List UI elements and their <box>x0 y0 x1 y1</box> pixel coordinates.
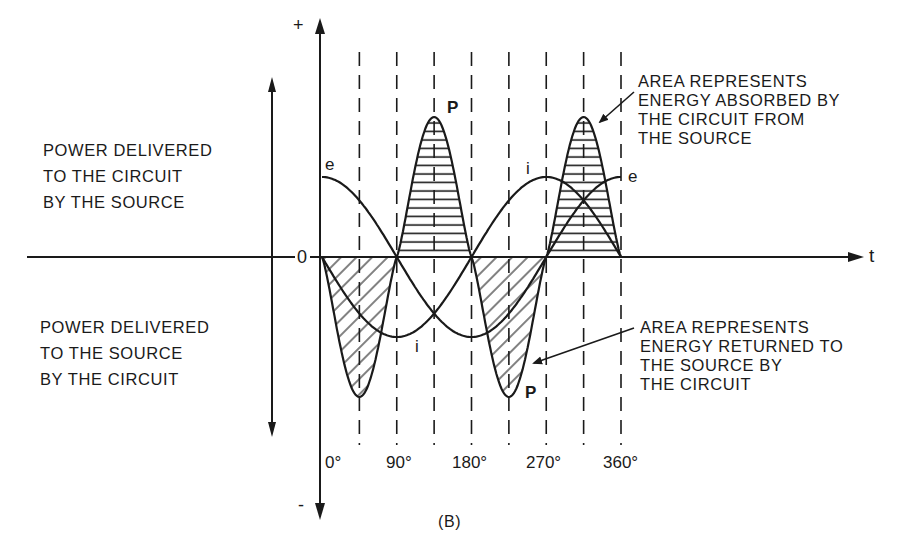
energy-absorbed-annotation: AREA REPRESENTS ENERGY ABSORBED BY THE C… <box>638 72 840 148</box>
time-axis-label: t <box>869 245 875 267</box>
returned-energy-lobe-0 <box>322 257 397 397</box>
power-direction-up-arrowhead <box>268 77 276 92</box>
x-tick-90: 90° <box>386 453 412 473</box>
returned-energy-lobe-2 <box>472 257 547 397</box>
curve-label-p-bottom: P <box>525 383 536 403</box>
axis-positive-sign: + <box>293 14 304 36</box>
figure-caption: (B) <box>438 511 461 533</box>
time-axis-arrowhead <box>848 252 864 262</box>
energy-returned-annotation: AREA REPRESENTS ENERGY RETURNED TO THE S… <box>640 318 843 394</box>
curve-label-e-left: e <box>325 155 334 175</box>
vertical-axis-down-arrowhead <box>315 503 325 520</box>
curve-label-e-right: e <box>628 167 637 187</box>
x-tick-270: 270° <box>526 453 561 473</box>
curve-label-p-top: P <box>447 98 458 118</box>
absorbed-energy-lobe-3 <box>546 117 621 257</box>
axis-zero-label: 0 <box>295 246 310 268</box>
x-tick-360: 360° <box>603 453 638 473</box>
upper-side-label: POWER DELIVERED TO THE CIRCUIT BY THE SO… <box>43 137 212 215</box>
curve-label-i-top: i <box>526 159 530 179</box>
vertical-axis-up-arrowhead <box>315 18 325 34</box>
absorbed-leader-arrow <box>600 92 634 122</box>
x-tick-180: 180° <box>452 453 487 473</box>
axis-negative-sign: - <box>298 494 305 516</box>
lower-side-label: POWER DELIVERED TO THE SOURCE BY THE CIR… <box>40 314 209 392</box>
power-direction-down-arrowhead <box>268 422 276 437</box>
curve-label-i-bottom: i <box>415 337 419 357</box>
absorbed-energy-lobe-1 <box>397 117 472 257</box>
x-tick-0: 0° <box>325 453 341 473</box>
